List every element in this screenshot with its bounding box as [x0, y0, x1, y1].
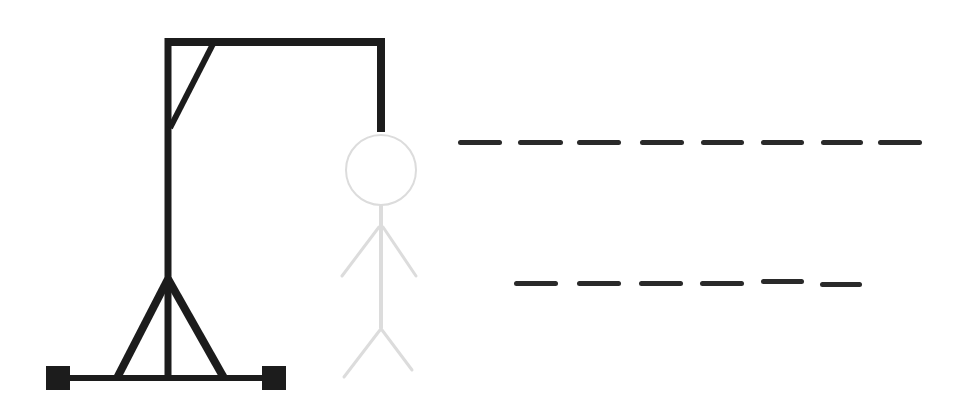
letter-blank [639, 281, 683, 286]
letter-blank [761, 140, 804, 145]
gallows-brace [170, 44, 213, 128]
figure-right-leg [382, 330, 412, 370]
gallows-tripod-left [117, 279, 168, 378]
figure-left-arm [342, 227, 379, 276]
letter-blank [701, 140, 744, 145]
letter-blank [820, 282, 862, 287]
gallows-right-foot [262, 366, 286, 390]
figure-head [346, 135, 416, 205]
letter-blank [761, 279, 804, 284]
letter-blank [458, 140, 502, 145]
gallows-drawing [0, 0, 974, 401]
figure-left-leg [344, 330, 380, 377]
letter-blank [514, 281, 558, 286]
letter-blank [577, 281, 621, 286]
gallows-tripod-right [168, 279, 224, 378]
letter-blank [518, 140, 563, 145]
word-blanks-2 [514, 281, 862, 286]
hangman-game [0, 0, 974, 401]
letter-blank [577, 140, 621, 145]
figure-right-arm [383, 227, 416, 276]
letter-blank [878, 140, 922, 145]
letter-blank [821, 140, 863, 145]
gallows-left-foot [46, 366, 70, 390]
stick-figure [342, 135, 416, 377]
word-blanks-1 [458, 140, 922, 145]
letter-blank [640, 140, 684, 145]
gallows [60, 38, 385, 378]
letter-blank [700, 281, 744, 286]
